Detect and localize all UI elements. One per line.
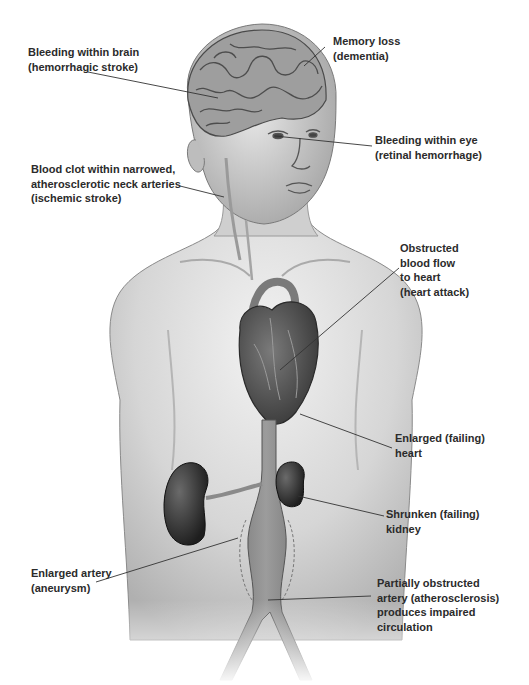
label-line: Obstructed	[400, 242, 459, 254]
label-line: (hemorrhagic stroke)	[28, 61, 138, 73]
kidney-right	[276, 462, 304, 507]
label-line: circulation	[377, 621, 433, 633]
label-line: to heart	[400, 271, 440, 283]
label-line: artery (atherosclerosis)	[377, 592, 499, 604]
label-brain-bleed: Bleeding within brain(hemorrhagic stroke…	[28, 45, 139, 74]
label-line: heart	[395, 447, 422, 459]
label-eye-bleed: Bleeding within eye(retinal hemorrhage)	[375, 133, 482, 162]
label-line: Enlarged (failing)	[395, 432, 485, 444]
label-line: (dementia)	[333, 50, 389, 62]
label-atherosclerosis: Partially obstructedartery (atherosclero…	[377, 576, 499, 634]
label-line: kidney	[386, 523, 421, 535]
label-aneurysm: Enlarged artery(aneurysm)	[31, 566, 112, 595]
label-heart-attack: Obstructedblood flowto heart(heart attac…	[400, 241, 469, 299]
label-line: Shrunken (failing)	[386, 508, 480, 520]
label-line: produces impaired	[377, 606, 475, 618]
label-shrunken-kidney: Shrunken (failing)kidney	[386, 507, 480, 536]
label-line: Enlarged artery	[31, 567, 112, 579]
label-line: Blood clot within narrowed,	[31, 163, 175, 175]
label-line: Bleeding within brain	[28, 46, 139, 58]
label-line: Bleeding within eye	[375, 134, 478, 146]
label-line: (heart attack)	[400, 286, 469, 298]
diagram-canvas: Bleeding within brain(hemorrhagic stroke…	[0, 0, 529, 685]
label-line: Partially obstructed	[377, 577, 480, 589]
label-neck-clot: Blood clot within narrowed,atherosclerot…	[31, 162, 181, 206]
label-enlarged-heart: Enlarged (failing)heart	[395, 431, 485, 460]
label-line: (aneurysm)	[31, 582, 90, 594]
label-line: atherosclerotic neck arteries	[31, 178, 181, 190]
label-line: (ischemic stroke)	[31, 192, 121, 204]
label-line: blood flow	[400, 257, 455, 269]
label-line: (retinal hemorrhage)	[375, 149, 482, 161]
label-line: Memory loss	[333, 35, 400, 47]
label-memory-loss: Memory loss(dementia)	[333, 34, 400, 63]
